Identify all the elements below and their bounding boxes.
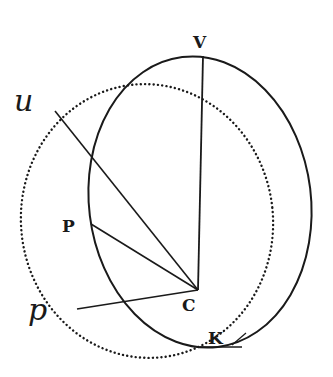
label-u: u [14,83,33,118]
segment-u-C [55,111,198,290]
label-P: P [62,216,75,236]
label-K: K [208,328,224,348]
geometry-diagram: V u P C p K [0,0,333,377]
label-p: p [28,292,47,327]
segment-P-C [91,224,198,290]
label-C: C [182,295,196,315]
label-V: V [192,32,207,52]
segment-p-C [77,290,198,309]
segment-V-C [198,56,203,290]
